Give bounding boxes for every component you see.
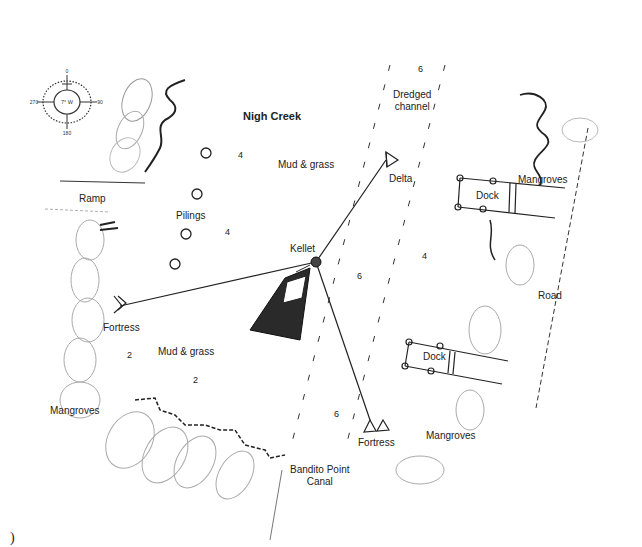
depth-right-mid: 4 bbox=[422, 251, 427, 261]
mud-grass-bottom-label: Mud & grass bbox=[158, 346, 214, 358]
dredged-channel-line1: Dredged bbox=[393, 89, 431, 101]
mangroves-upper-left bbox=[104, 75, 185, 178]
fortress-bottom-label: Fortress bbox=[358, 437, 395, 449]
pilings-label: Pilings bbox=[176, 210, 205, 222]
road-label: Road bbox=[538, 290, 562, 302]
dredged-channel-line2: channel bbox=[393, 101, 431, 113]
depth-near-pilings-mid: 4 bbox=[225, 227, 230, 237]
dock-bottom-label: Dock bbox=[423, 351, 446, 363]
mud-grass-top-label: Mud & grass bbox=[278, 159, 334, 171]
fortress-left-label: Fortress bbox=[103, 322, 140, 334]
footer-paren: ) bbox=[10, 530, 15, 546]
ramp-edge-top bbox=[60, 181, 145, 183]
ramp-label: Ramp bbox=[79, 193, 106, 205]
fortress-anchor-left-icon bbox=[114, 296, 126, 313]
delta-label: Delta bbox=[389, 173, 412, 185]
delta-anchor-icon bbox=[386, 152, 398, 167]
dredged-channel-label: Dredged channel bbox=[393, 89, 431, 112]
mangroves-right-shore bbox=[396, 94, 598, 484]
fortress-anchor-bottom-icon bbox=[364, 420, 389, 432]
kellet-weight-icon bbox=[311, 257, 321, 267]
canal-line2: Canal bbox=[290, 476, 350, 488]
kellet-label: Kellet bbox=[290, 243, 315, 255]
depth-left-shallow: 2 bbox=[127, 350, 132, 360]
canal-label: Bandito Point Canal bbox=[290, 464, 350, 487]
depth-bottom-shallow: 2 bbox=[193, 375, 198, 385]
depth-near-pilings-top: 4 bbox=[238, 150, 243, 160]
svg-text:270: 270 bbox=[30, 99, 39, 105]
mangroves-left-shore bbox=[60, 220, 118, 418]
svg-text:90: 90 bbox=[97, 99, 103, 105]
anchoring-diagram-map: 0 180 270 90 7° W bbox=[0, 0, 642, 547]
depth-channel-mid: 6 bbox=[357, 271, 362, 281]
canal-line1: Bandito Point bbox=[290, 464, 350, 476]
anchor-rodes bbox=[120, 160, 386, 420]
creek-name-label: Nigh Creek bbox=[243, 110, 301, 123]
mangroves-bottom-right-label: Mangroves bbox=[426, 430, 475, 442]
dock-bottom-structure bbox=[402, 339, 508, 384]
boat-icon bbox=[250, 265, 310, 340]
depth-channel-bottom: 6 bbox=[334, 409, 339, 419]
svg-text:180: 180 bbox=[63, 130, 72, 136]
pilings bbox=[170, 148, 211, 269]
dock-top-label: Dock bbox=[476, 190, 499, 202]
mangroves-left-label: Mangroves bbox=[50, 405, 99, 417]
road-edge bbox=[536, 128, 588, 408]
svg-text:0: 0 bbox=[66, 68, 69, 74]
mangroves-bottom-shore bbox=[96, 398, 285, 540]
depth-channel-top: 6 bbox=[418, 64, 423, 74]
ramp-edge-bottom bbox=[45, 209, 110, 212]
mangroves-top-right-label: Mangroves bbox=[518, 174, 567, 186]
svg-text:7° W: 7° W bbox=[61, 99, 74, 105]
compass-rose-icon: 0 180 270 90 7° W bbox=[30, 68, 103, 136]
